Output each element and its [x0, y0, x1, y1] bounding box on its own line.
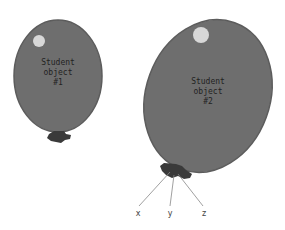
balloon-highlight — [33, 35, 45, 47]
balloon-highlight — [193, 27, 209, 43]
balloon-diagram: Student object #1 Student object #2 x y … — [0, 0, 285, 230]
balloon-label-line-1: Student — [41, 58, 75, 67]
balloon-student-1: Student object #1 — [14, 20, 102, 143]
label-y: y — [168, 209, 173, 218]
balloon-label-line-2: object — [194, 87, 223, 96]
balloon-knot — [47, 131, 71, 143]
string-z — [178, 174, 203, 206]
string-x — [139, 172, 170, 206]
balloon-label-line-3: #2 — [203, 97, 213, 106]
label-z: z — [202, 209, 206, 218]
balloon-label-line-1: Student — [191, 77, 225, 86]
balloon-label-line-3: #1 — [53, 78, 63, 87]
string-y — [170, 175, 174, 206]
label-x: x — [136, 209, 141, 218]
balloon-label-line-2: object — [44, 68, 73, 77]
balloon-student-2: Student object #2 — [123, 1, 285, 190]
